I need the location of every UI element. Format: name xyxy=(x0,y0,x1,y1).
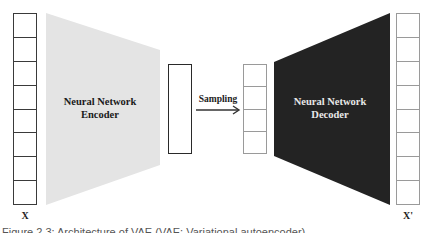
input-vector-cell xyxy=(14,109,36,133)
latent-vector xyxy=(168,64,192,154)
input-vector xyxy=(13,13,37,205)
sampled-vector-cell xyxy=(244,109,266,131)
input-vector-cell xyxy=(14,61,36,85)
output-vector-cell xyxy=(397,132,419,156)
decoder-label-line2: Decoder xyxy=(280,108,380,121)
output-vector-cell xyxy=(397,109,419,133)
output-label: X' xyxy=(398,210,418,221)
input-label: X xyxy=(15,210,35,221)
output-vector-cell xyxy=(397,14,419,37)
input-vector-cell xyxy=(14,156,36,180)
encoder-label-line1: Neural Network xyxy=(50,95,150,108)
sampled-vector-cell xyxy=(244,131,266,153)
output-vector-cell xyxy=(397,61,419,85)
sampled-vector-cell xyxy=(244,65,266,86)
figure-caption: Figure 2.3: Architecture of VAE (VAE: Va… xyxy=(2,226,305,233)
vae-diagram: Neural Network Encoder Sampling Neural N… xyxy=(0,0,433,233)
output-vector xyxy=(396,13,420,205)
input-vector-cell xyxy=(14,132,36,156)
output-vector-cell xyxy=(397,85,419,109)
input-vector-cell xyxy=(14,14,36,37)
sampling-arrow-icon xyxy=(196,106,239,114)
output-vector-cell xyxy=(397,156,419,180)
output-vector-cell xyxy=(397,180,419,204)
encoder-label-line2: Encoder xyxy=(50,108,150,121)
sampled-vector-cell xyxy=(244,86,266,108)
decoder-label-line1: Neural Network xyxy=(280,95,380,108)
input-vector-cell xyxy=(14,37,36,61)
encoder-label: Neural Network Encoder xyxy=(50,95,150,121)
output-vector-cell xyxy=(397,37,419,61)
input-vector-cell xyxy=(14,180,36,204)
sampling-label: Sampling xyxy=(193,94,243,104)
sampled-vector xyxy=(243,64,267,154)
input-vector-cell xyxy=(14,85,36,109)
decoder-label: Neural Network Decoder xyxy=(280,95,380,121)
